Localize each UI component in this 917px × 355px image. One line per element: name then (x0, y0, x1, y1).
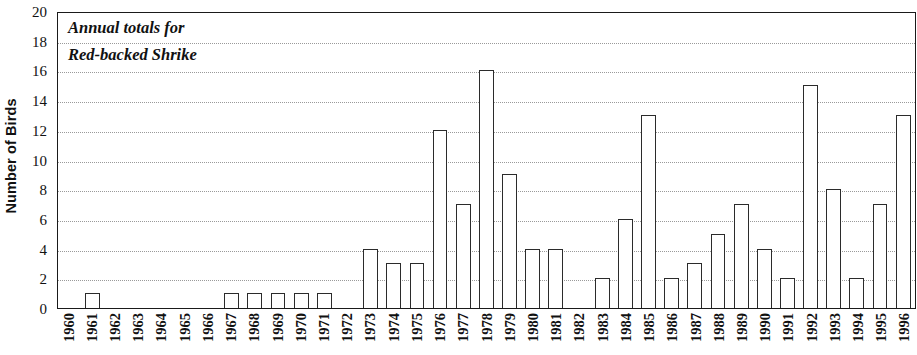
bar[interactable] (896, 115, 911, 308)
x-tick-slot: 1970 (289, 311, 312, 355)
bar[interactable] (803, 85, 818, 308)
x-axis-tick-label: 1990 (758, 313, 773, 342)
bar-slot (660, 13, 683, 308)
x-axis-tick-label: 1967 (224, 313, 239, 342)
x-axis-tick-label: 1966 (201, 313, 216, 342)
bar[interactable] (757, 249, 772, 308)
x-tick-slot: 1991 (777, 311, 800, 355)
bar-slot (405, 13, 428, 308)
bar[interactable] (410, 263, 425, 308)
x-axis-tick-label: 1983 (595, 313, 610, 342)
x-axis-tick-label: 1989 (735, 313, 750, 342)
x-axis-tick-label: 1964 (154, 313, 169, 342)
bar[interactable] (294, 293, 309, 308)
y-axis-label: Number of Birds (3, 98, 19, 213)
bar-slot (845, 13, 868, 308)
x-axis-tick-label: 1963 (131, 313, 146, 342)
bar[interactable] (525, 249, 540, 308)
bar-slot (799, 13, 822, 308)
x-axis-tick-label: 1996 (897, 313, 912, 342)
x-axis-tick-label: 1993 (828, 313, 843, 342)
x-tick-slot: 1983 (591, 311, 614, 355)
bar[interactable] (548, 249, 563, 308)
x-axis-tick-label: 1988 (711, 313, 726, 342)
y-axis-tick-label: 8 (40, 183, 48, 198)
bar-slot (730, 13, 753, 308)
y-axis-tick-label: 12 (32, 123, 47, 138)
x-tick-slot: 1964 (150, 311, 173, 355)
bar[interactable] (317, 293, 332, 308)
bar[interactable] (85, 293, 100, 308)
x-tick-slot: 1972 (336, 311, 359, 355)
bar[interactable] (687, 263, 702, 308)
x-tick-slot: 1965 (173, 311, 196, 355)
bar[interactable] (826, 189, 841, 308)
x-tick-slot: 1971 (312, 311, 335, 355)
bar[interactable] (780, 278, 795, 308)
bar[interactable] (386, 263, 401, 308)
bar[interactable] (849, 278, 864, 308)
bar-slot (336, 13, 359, 308)
x-tick-slot: 1969 (266, 311, 289, 355)
x-tick-slot: 1967 (220, 311, 243, 355)
x-tick-slot: 1974 (382, 311, 405, 355)
x-tick-slot: 1961 (80, 311, 103, 355)
bar[interactable] (247, 293, 262, 308)
y-axis-tick-label: 18 (32, 34, 47, 49)
bar-slot (868, 13, 891, 308)
x-tick-slot: 1963 (127, 311, 150, 355)
bar[interactable] (456, 204, 471, 308)
x-axis-tick-label: 1992 (804, 313, 819, 342)
x-axis-tick-label: 1991 (781, 313, 796, 342)
chart-title-line-2: Red-backed Shrike (68, 41, 328, 68)
x-tick-slot: 1980 (521, 311, 544, 355)
bar-slot (706, 13, 729, 308)
bar[interactable] (479, 70, 494, 308)
y-axis-tick-label: 14 (32, 94, 47, 109)
bar-slot (429, 13, 452, 308)
bar[interactable] (734, 204, 749, 308)
bar[interactable] (873, 204, 888, 308)
bar[interactable] (363, 249, 378, 308)
y-axis-tick-label: 4 (40, 242, 48, 257)
bar[interactable] (711, 234, 726, 308)
x-axis-tick-label: 1968 (247, 313, 262, 342)
x-axis-tick-label: 1971 (317, 313, 332, 342)
x-axis-tick-labels: 1960196119621963196419651966196719681969… (57, 311, 916, 355)
x-axis-tick-label: 1984 (619, 313, 634, 342)
bar[interactable] (224, 293, 239, 308)
bar-slot (591, 13, 614, 308)
x-axis-tick-label: 1961 (85, 313, 100, 342)
x-axis-tick-label: 1974 (386, 313, 401, 342)
x-tick-slot: 1966 (196, 311, 219, 355)
y-axis-tick-label: 6 (40, 212, 48, 227)
bar[interactable] (664, 278, 679, 308)
bar-slot (892, 13, 915, 308)
bar-slot (822, 13, 845, 308)
x-axis-tick-label: 1976 (433, 313, 448, 342)
y-axis-tick-label: 0 (40, 302, 48, 317)
x-axis-tick-label: 1982 (572, 313, 587, 342)
bar-slot (637, 13, 660, 308)
x-tick-slot: 1978 (475, 311, 498, 355)
x-tick-slot: 1973 (359, 311, 382, 355)
bar-slot (567, 13, 590, 308)
bar[interactable] (641, 115, 656, 308)
bar[interactable] (618, 219, 633, 308)
x-axis-tick-label: 1960 (61, 313, 76, 342)
bar[interactable] (271, 293, 286, 308)
bar-slot (521, 13, 544, 308)
x-axis-tick-label: 1965 (177, 313, 192, 342)
bar[interactable] (595, 278, 610, 308)
x-axis-tick-label: 1969 (270, 313, 285, 342)
x-axis-tick-label: 1962 (108, 313, 123, 342)
x-axis-tick-label: 1995 (874, 313, 889, 342)
x-tick-slot: 1994 (846, 311, 869, 355)
x-axis-tick-label: 1985 (642, 313, 657, 342)
y-axis-tick-label: 2 (40, 272, 48, 287)
x-axis-tick-label: 1977 (456, 313, 471, 342)
bar-slot (753, 13, 776, 308)
bar[interactable] (433, 130, 448, 308)
bar[interactable] (502, 174, 517, 308)
x-tick-slot: 1988 (707, 311, 730, 355)
